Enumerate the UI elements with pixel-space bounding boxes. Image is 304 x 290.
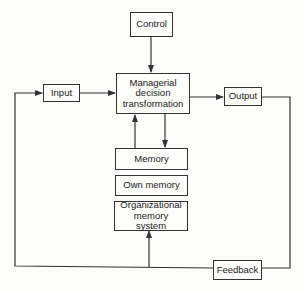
own-memory-label: Own memory bbox=[123, 180, 179, 191]
organizational-memory-box: Organizational memory system bbox=[114, 201, 188, 231]
org-memory-label: Organizational memory system bbox=[118, 200, 184, 232]
line-output-to-feedback bbox=[262, 97, 290, 268]
managerial-label: Managerial decision transformation bbox=[119, 78, 187, 110]
own-memory-box: Own memory bbox=[115, 175, 188, 196]
control-box: Control bbox=[130, 12, 173, 37]
output-box: Output bbox=[224, 87, 262, 106]
managerial-decision-box: Managerial decision transformation bbox=[116, 73, 190, 114]
input-box: Input bbox=[43, 84, 80, 102]
input-label: Input bbox=[51, 88, 72, 99]
memory-box: Memory bbox=[115, 148, 188, 170]
output-label: Output bbox=[229, 91, 258, 102]
memory-label: Memory bbox=[134, 154, 168, 165]
control-label: Control bbox=[136, 19, 167, 30]
feedback-box: Feedback bbox=[213, 260, 262, 280]
feedback-label: Feedback bbox=[217, 265, 259, 276]
connector-lines bbox=[0, 0, 304, 290]
